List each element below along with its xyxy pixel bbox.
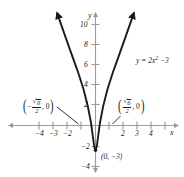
y-axis-label: y: [88, 12, 92, 20]
right-intercept-numerator: √6: [123, 98, 132, 106]
x-tick-label-2: 2: [121, 130, 125, 138]
left-intercept-denominator: 2: [35, 108, 38, 115]
right-intercept-second-coordinate: , 0: [132, 103, 140, 111]
x-tick-label-4: 4: [149, 130, 153, 138]
y-tick-label-8: 8: [84, 41, 88, 49]
graph-figure: −4 −3 −2 2 3 4 10 8 6 4 2 −2 −4 y x y = …: [0, 0, 184, 177]
left-intercept-numerator: √6: [32, 98, 41, 106]
left-intercept-coordinate: ( − √6 2 , 0 ): [22, 98, 55, 115]
x-axis-label: x: [170, 129, 174, 137]
left-intercept-radicand: 6: [36, 99, 40, 107]
y-tick-label-6: 6: [84, 61, 88, 69]
right-intercept-radicand: 6: [127, 99, 131, 107]
left-intercept-annotation: ( − √6 2 , 0 ): [22, 98, 55, 115]
y-tick-label-4: 4: [84, 81, 88, 89]
equation-equals: =: [141, 56, 146, 65]
open-paren: (: [23, 99, 26, 113]
right-intercept-leader-line: [113, 116, 121, 124]
equation-label: y = 2x2 −3: [136, 57, 169, 65]
left-intercept-fraction: √6 2: [32, 98, 41, 115]
coordinate-plane: [0, 0, 184, 177]
left-intercept-second-coordinate: , 0: [41, 103, 49, 111]
radical-sign: √6: [33, 98, 41, 106]
y-tick-label--2: −2: [81, 143, 90, 151]
vertex-point: [94, 149, 97, 152]
radical-sign: √6: [123, 98, 131, 106]
close-paren: ): [141, 99, 144, 113]
x-tick-label-3: 3: [135, 130, 139, 138]
equation-exponent: 2: [155, 55, 158, 61]
close-paren: ): [50, 99, 53, 113]
y-tick-label--4: −4: [81, 163, 90, 171]
y-tick-label-10: 10: [80, 21, 88, 29]
x-tick-label--2: −2: [63, 130, 72, 138]
x-tick-label--3: −3: [49, 130, 58, 138]
y-tick-label-2: 2: [84, 101, 88, 109]
equation-lhs: y: [136, 56, 139, 65]
vertex-annotation: (0, −3): [101, 153, 122, 161]
equation-constant: 3: [165, 56, 169, 65]
right-intercept-coordinate: ( √6 2 , 0 ): [117, 98, 145, 115]
left-intercept-leader-line: [57, 107, 79, 124]
x-tick-label--4: −4: [35, 130, 44, 138]
right-intercept-fraction: √6 2: [123, 98, 132, 115]
right-intercept-annotation: ( √6 2 , 0 ): [117, 98, 145, 115]
left-intercept-sign: −: [27, 103, 32, 111]
open-paren: (: [118, 99, 121, 113]
right-intercept-denominator: 2: [125, 108, 128, 115]
